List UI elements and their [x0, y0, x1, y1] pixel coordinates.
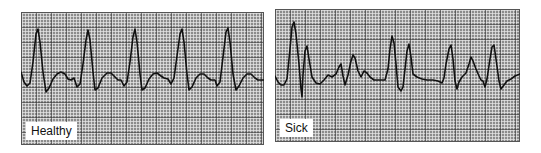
panel-label-healthy: Healthy: [26, 122, 77, 140]
ecg-panel-sick: Sick: [275, 9, 520, 142]
panel-label-sick: Sick: [280, 119, 313, 137]
ecg-panel-healthy: Healthy: [21, 12, 264, 145]
